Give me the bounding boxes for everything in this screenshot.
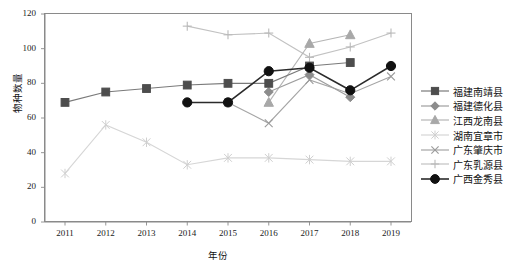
legend-label: 江西龙南县 xyxy=(453,113,504,128)
x-axis-tick-label: 2013 xyxy=(127,228,167,238)
x-axis-tick-label: 2019 xyxy=(371,228,411,238)
legend-label: 福建南靖县 xyxy=(453,84,504,99)
data-point-marker xyxy=(346,86,355,95)
x-axis-tick-label: 2012 xyxy=(86,228,126,238)
x-axis-tick-label: 2014 xyxy=(167,228,207,238)
chart-legend: 福建南靖县福建德化县江西龙南县湖南宜章市广东肇庆市广东乳源县广西金秀县 xyxy=(420,84,524,186)
data-point-marker xyxy=(431,174,440,183)
data-point-marker xyxy=(346,59,354,67)
legend-item-4[interactable]: 湖南宜章市 xyxy=(420,128,524,143)
x-axis-tick-label: 2015 xyxy=(208,228,248,238)
y-axis-tick-label: 0 xyxy=(6,216,36,226)
series-line xyxy=(65,125,391,174)
chart-container: 020406080100120 201120122013201420152016… xyxy=(0,0,528,270)
y-axis-tick-label: 120 xyxy=(6,8,36,18)
series-line xyxy=(187,26,391,57)
series-5 xyxy=(224,73,395,128)
data-point-marker xyxy=(431,88,438,95)
data-point-marker xyxy=(431,160,439,168)
x-axis-tick-label: 2016 xyxy=(249,228,289,238)
legend-marker-cross-icon xyxy=(420,143,450,157)
y-axis-tick-label: 100 xyxy=(6,43,36,53)
data-point-marker xyxy=(102,120,110,129)
data-point-marker xyxy=(264,98,273,107)
series-4 xyxy=(61,120,395,178)
legend-item-6[interactable]: 广东乳源县 xyxy=(420,157,524,172)
data-point-marker xyxy=(143,85,151,93)
y-axis-tick-label: 40 xyxy=(6,147,36,157)
data-point-marker xyxy=(223,98,232,107)
data-point-marker xyxy=(265,79,273,87)
legend-marker-circle-icon xyxy=(420,172,450,186)
data-point-marker xyxy=(431,102,439,110)
legend-label: 湖南宜章市 xyxy=(453,128,504,143)
legend-label: 广西金秀县 xyxy=(453,171,504,186)
legend-marker-triangle-icon xyxy=(420,113,450,127)
legend-marker-diamond-icon xyxy=(420,99,450,113)
legend-label: 福建德化县 xyxy=(453,98,504,113)
legend-item-1[interactable]: 福建南靖县 xyxy=(420,84,524,99)
data-point-marker xyxy=(265,119,273,127)
data-point-marker xyxy=(346,42,355,51)
data-point-marker xyxy=(346,30,355,39)
data-point-marker xyxy=(183,22,192,31)
legend-item-7[interactable]: 广西金秀县 xyxy=(420,172,524,187)
data-point-marker xyxy=(224,30,233,39)
data-point-marker xyxy=(264,67,273,76)
data-point-marker xyxy=(61,169,69,178)
data-point-marker xyxy=(102,88,110,96)
x-axis-tick-label: 2011 xyxy=(45,228,85,238)
data-point-marker xyxy=(264,88,273,97)
legend-marker-plus-icon xyxy=(420,157,450,171)
x-axis-tick-label: 2018 xyxy=(330,228,370,238)
legend-item-3[interactable]: 江西龙南县 xyxy=(420,113,524,128)
legend-marker-star-icon xyxy=(420,128,450,142)
legend-label: 广东乳源县 xyxy=(453,157,504,172)
legend-item-5[interactable]: 广东肇庆市 xyxy=(420,142,524,157)
data-point-marker xyxy=(61,99,69,107)
data-point-marker xyxy=(183,98,192,107)
data-point-marker xyxy=(387,29,396,38)
data-point-marker xyxy=(224,79,232,87)
data-point-marker xyxy=(264,29,273,38)
data-point-marker xyxy=(386,61,395,70)
data-point-marker xyxy=(387,73,395,81)
data-point-marker xyxy=(305,53,314,62)
y-axis-title: 物种数量 xyxy=(10,58,24,128)
legend-marker-square-icon xyxy=(420,84,450,98)
y-axis-tick-label: 20 xyxy=(6,181,36,191)
data-point-marker xyxy=(183,81,191,89)
data-point-marker xyxy=(143,138,151,147)
data-point-marker xyxy=(305,63,314,72)
legend-label: 广东肇庆市 xyxy=(453,142,504,157)
x-axis-tick-label: 2017 xyxy=(290,228,330,238)
x-axis-title: 年份 xyxy=(208,248,228,262)
series-6 xyxy=(183,22,396,62)
legend-item-2[interactable]: 福建德化县 xyxy=(420,99,524,114)
